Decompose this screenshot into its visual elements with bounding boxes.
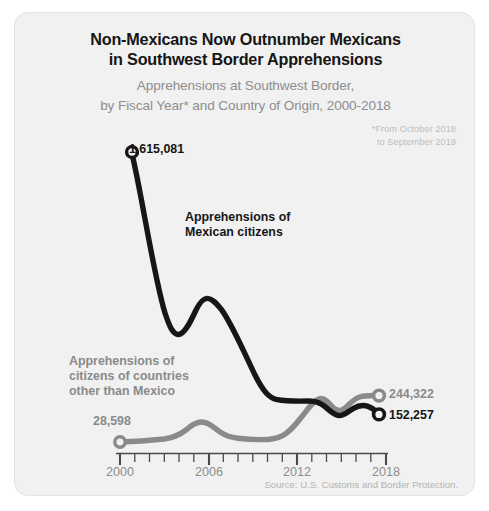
marker-nonmexican-end [374,390,385,401]
annotation-nonmexican-series: Apprehensions of citizens of countries o… [69,354,189,399]
marker-nonmexican-start [115,437,125,447]
x-tick-label-2018: 2018 [356,465,416,479]
value-label-mexican-end: 152,257 [389,408,434,422]
x-axis-minor-ticks [135,453,371,462]
chart-card: Non-Mexicans Now Outnumber Mexicans in S… [14,12,475,496]
annotation-nonmexican-line-2: citizens of countries [69,369,189,384]
marker-mexican-end [374,409,385,420]
chart-source: Source: U.S. Customs and Border Protecti… [264,479,458,490]
annotation-mexican-series: Apprehensions of Mexican citizens [185,210,290,240]
x-tick-label-2012: 2012 [267,465,327,479]
annotation-nonmexican-line-3: other than Mexico [69,384,189,399]
line-chart-plot [15,13,475,496]
annotation-mexican-line-2: Mexican citizens [185,225,290,240]
x-tick-label-2000: 2000 [90,465,150,479]
x-tick-label-2006: 2006 [179,465,239,479]
value-label-mexican-peak: 1,615,081 [129,142,184,156]
value-label-nonmexican-end: 244,322 [389,387,434,401]
nonmexican-series-line [120,396,379,442]
value-label-nonmexican-start: 28,598 [93,414,131,428]
annotation-mexican-line-1: Apprehensions of [185,210,290,225]
annotation-nonmexican-line-1: Apprehensions of [69,354,189,369]
